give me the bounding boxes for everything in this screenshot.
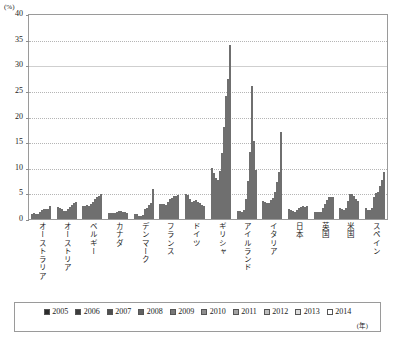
bar-group [311,14,337,219]
x-axis-label-9: イタリア [259,222,285,296]
x-axis-label-text: スペイン [371,222,380,296]
bar-group [79,14,105,219]
x-axis-label-6: ドイツ [182,222,208,296]
legend-swatch-2011 [233,309,239,315]
bar [306,206,308,219]
x-axis-label-11: 英国 [311,222,337,296]
legend-swatch-2006 [75,309,81,315]
bar [280,132,282,219]
y-axis-tick-10: 10 [15,164,23,172]
x-axis-label-text: ギリシャ [217,222,226,296]
plot-area: (%) 0510152025303540 オーストラリアオーストリアベルギーカナ… [0,0,395,300]
bar-groups [28,14,388,219]
x-axis-label-12: 米国 [337,222,363,296]
bar [332,197,334,219]
x-axis-label-text: オーストリア [62,222,71,296]
legend-swatch-2014 [327,309,333,315]
bar [49,206,51,219]
y-axis-tick-15: 15 [15,138,23,146]
y-axis-tick-0: 0 [19,215,23,223]
x-axis-label-2: ベルギー [79,222,105,296]
x-axis-category-labels: オーストラリアオーストリアベルギーカナダデンマークフランスドイツギリシャアイルラ… [28,222,388,296]
legend-item-2012[interactable]: 2012 [264,308,289,316]
y-axis-tick-20: 20 [15,113,23,121]
legend-item-2006[interactable]: 2006 [75,308,100,316]
bar-group [259,14,285,219]
x-axis-label-7: ギリシャ [208,222,234,296]
x-axis-label-text: イタリア [268,222,277,296]
x-axis-label-text: ドイツ [191,222,200,296]
x-axis-label-0: オーストラリア [28,222,54,296]
y-tickmark-0 [26,220,29,221]
legend-item-2011[interactable]: 2011 [233,308,257,316]
x-axis-label-text: 日本 [294,222,303,296]
legend-box: 2005200620072008200920102011201220132014… [14,302,381,332]
bar [152,189,154,219]
legend-year-unit: (年) [357,320,368,330]
y-axis-unit-label: (%) [4,3,15,11]
legend-swatch-2005 [44,309,50,315]
y-axis-tick-40: 40 [15,10,23,18]
bar [126,213,128,219]
x-axis-label-10: 日本 [285,222,311,296]
legend-item-2009[interactable]: 2009 [170,308,195,316]
x-axis-label-5: フランス [157,222,183,296]
x-axis-label-text: デンマーク [139,222,148,296]
x-axis-label-1: オーストリア [54,222,80,296]
legend-label-2008: 2008 [147,308,163,316]
legend-item-2007[interactable]: 2007 [107,308,132,316]
legend-item-2010[interactable]: 2010 [201,308,226,316]
legend-item-2008[interactable]: 2008 [138,308,163,316]
x-axis-label-8: アイルランド [234,222,260,296]
bar-group [28,14,54,219]
legend-item-2013[interactable]: 2013 [295,308,320,316]
bar [75,202,77,219]
legend-label-2014: 2014 [335,308,351,316]
bar-group [285,14,311,219]
legend-label-2010: 2010 [210,308,226,316]
x-axis-label-text: フランス [165,222,174,296]
bar [255,170,257,219]
x-axis-label-text: オーストラリア [37,222,46,296]
legend-swatch-2008 [138,309,144,315]
y-axis-tick-35: 35 [15,36,23,44]
legend-swatch-2007 [107,309,113,315]
bar-group [157,14,183,219]
x-axis-label-text: カナダ [114,222,123,296]
legend-label-2005: 2005 [52,308,68,316]
legend-label-2006: 2006 [84,308,100,316]
y-axis-tick-25: 25 [15,87,23,95]
bar [229,45,231,219]
bar [383,172,385,219]
legend-label-2007: 2007 [115,308,131,316]
bar-group [182,14,208,219]
bar-group [208,14,234,219]
bar-group [362,14,388,219]
bar [203,206,205,219]
y-axis-tick-30: 30 [15,61,23,69]
bar-group [337,14,363,219]
legend-label-2013: 2013 [304,308,320,316]
bar-group [54,14,80,219]
y-axis-tick-5: 5 [19,189,23,197]
bar-group [234,14,260,219]
chart-screenshot: (%) 0510152025303540 オーストラリアオーストリアベルギーカナ… [0,0,395,344]
legend-label-2011: 2011 [241,308,257,316]
bar-group [105,14,131,219]
legend-label-2012: 2012 [272,308,288,316]
x-axis-label-text: ベルギー [88,222,97,296]
x-axis-label-4: デンマーク [131,222,157,296]
bar [177,195,179,219]
x-axis-label-text: 米国 [345,222,354,296]
legend-swatch-2012 [264,309,270,315]
legend-item-2014[interactable]: 2014 [327,308,352,316]
bar [100,194,102,219]
x-axis-label-text: 英国 [319,222,328,296]
x-axis-label-3: カナダ [105,222,131,296]
legend-swatch-2013 [295,309,301,315]
legend-label-2009: 2009 [178,308,194,316]
y-axis: 0510152025303540 [0,14,26,220]
legend-items: 2005200620072008200920102011201220132014 [15,308,380,316]
bar-group [131,14,157,219]
legend-item-2005[interactable]: 2005 [44,308,69,316]
